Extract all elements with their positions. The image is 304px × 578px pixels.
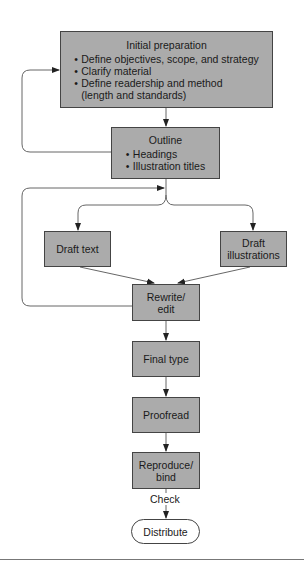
node-label-line1: Draft bbox=[242, 237, 265, 249]
node-label-line1: Reproduce/ bbox=[139, 459, 193, 471]
bullet-item: Illustration titles bbox=[126, 160, 205, 172]
edge-label-check: Check bbox=[150, 493, 180, 505]
node-rewrite-edit: Rewrite/ edit bbox=[132, 284, 200, 321]
bottom-divider bbox=[0, 559, 304, 560]
bullet-list: Headings Illustration titles bbox=[126, 148, 205, 172]
node-reproduce-bind: Reproduce/ bind bbox=[132, 452, 200, 489]
node-label: Draft text bbox=[56, 243, 99, 255]
arrow-draft-illustrations-to-rewrite bbox=[178, 267, 250, 283]
bullet-item: Headings bbox=[126, 148, 205, 160]
node-distribute: Distribute bbox=[131, 519, 200, 544]
bullet-item: Define objectives, scope, and strategy bbox=[74, 53, 258, 65]
node-proofread: Proofread bbox=[132, 397, 200, 433]
node-label-line1: Rewrite/ bbox=[147, 291, 186, 303]
node-title: Initial preparation bbox=[126, 39, 207, 51]
node-outline: Outline Headings Illustration titles bbox=[111, 127, 220, 179]
node-label-line2: edit bbox=[158, 303, 175, 315]
node-draft-text: Draft text bbox=[44, 231, 111, 267]
arrow-draft-text-to-rewrite bbox=[80, 267, 154, 283]
node-title: Outline bbox=[149, 134, 182, 146]
node-initial-preparation: Initial preparation Define objectives, s… bbox=[60, 31, 273, 108]
bullet-list: Define objectives, scope, and strategy C… bbox=[74, 53, 258, 101]
node-label-line2: bind bbox=[156, 471, 176, 483]
node-draft-illustrations: Draft illustrations bbox=[220, 231, 287, 267]
bullet-item: Clarify material bbox=[74, 65, 258, 77]
arrow-to-draft-text bbox=[78, 195, 166, 230]
arrow-to-draft-illustrations bbox=[166, 195, 253, 230]
bullet-continuation: (length and standards) bbox=[74, 89, 258, 101]
node-label-line2: illustrations bbox=[227, 249, 280, 261]
bullet-item: Define readership and method bbox=[74, 77, 258, 89]
node-label: Final type bbox=[143, 353, 189, 365]
node-final-type: Final type bbox=[132, 341, 200, 377]
node-label: Distribute bbox=[143, 526, 187, 538]
node-label: Proofread bbox=[143, 409, 189, 421]
